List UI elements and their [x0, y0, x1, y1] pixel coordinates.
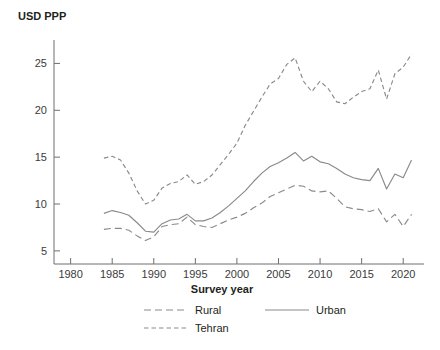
x-tick-label: 1980 [58, 268, 82, 280]
x-tick-label: 2005 [266, 268, 290, 280]
x-tick-label: 2015 [349, 268, 373, 280]
y-tick-label: 25 [35, 57, 47, 69]
x-axis-title: Survey year [191, 283, 254, 295]
y-tick-label: 15 [35, 151, 47, 163]
y-tick-label: 5 [41, 245, 47, 257]
series-lines [104, 54, 412, 241]
x-tick-label: 2000 [225, 268, 249, 280]
x-tick-label: 1985 [100, 268, 124, 280]
chart-legend: RuralUrbanTehran [144, 304, 346, 334]
legend-label-urban[interactable]: Urban [316, 304, 346, 316]
y-axis-ticks: 510152025 [35, 57, 60, 256]
x-tick-label: 2010 [308, 268, 332, 280]
legend-label-tehran[interactable]: Tehran [195, 322, 229, 334]
line-chart: USD PPP 510152025 1980198519901995200020… [0, 0, 440, 350]
y-axis-title: USD PPP [18, 10, 66, 22]
series-line-tehran [104, 54, 412, 204]
legend-label-rural[interactable]: Rural [195, 304, 221, 316]
x-tick-label: 2020 [391, 268, 415, 280]
series-line-urban [104, 152, 412, 232]
x-tick-label: 1990 [142, 268, 166, 280]
x-axis-ticks: 198019851990199520002005201020152020 [58, 258, 415, 280]
y-tick-label: 20 [35, 104, 47, 116]
y-tick-label: 10 [35, 198, 47, 210]
x-tick-label: 1995 [183, 268, 207, 280]
